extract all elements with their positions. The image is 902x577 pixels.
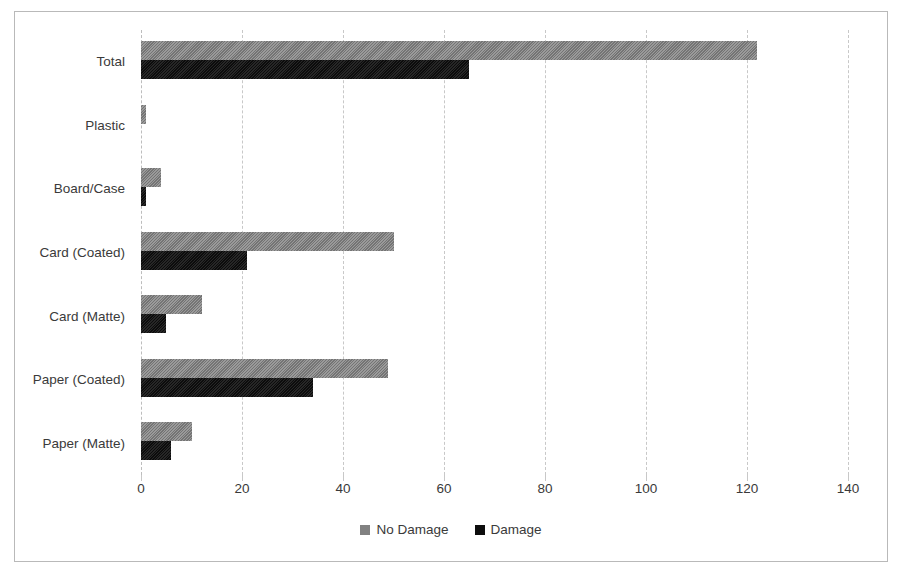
legend-swatch-icon	[360, 525, 370, 535]
bar-no-damage-card-coated[interactable]	[141, 232, 394, 251]
bar-no-damage-card-matte[interactable]	[141, 295, 202, 314]
chart-container: TotalPlasticBoard/CaseCard (Coated)Card …	[0, 0, 902, 577]
gridline-140	[848, 30, 850, 475]
category-label-plastic: Plastic	[20, 94, 133, 158]
legend-item-damage[interactable]: Damage	[475, 522, 542, 537]
bar-group-paper-coated	[141, 348, 848, 412]
x-axis-label-140: 140	[837, 481, 860, 496]
category-label-total: Total	[20, 30, 133, 94]
bars-layer	[141, 30, 848, 475]
bar-group-card-coated	[141, 221, 848, 285]
x-axis-label-0: 0	[137, 481, 145, 496]
chart-legend: No DamageDamage	[0, 522, 902, 537]
bar-damage-paper-matte[interactable]	[141, 441, 171, 460]
category-label-board-case: Board/Case	[20, 157, 133, 221]
bar-damage-total[interactable]	[141, 60, 469, 79]
bar-group-paper-matte	[141, 411, 848, 475]
x-axis-label-40: 40	[335, 481, 350, 496]
bar-group-card-matte	[141, 284, 848, 348]
legend-label: Damage	[491, 522, 542, 537]
bar-group-plastic	[141, 94, 848, 158]
bar-no-damage-paper-coated[interactable]	[141, 359, 388, 378]
category-label-paper-matte: Paper (Matte)	[20, 411, 133, 475]
bar-group-total	[141, 30, 848, 94]
bar-no-damage-board-case[interactable]	[141, 168, 161, 187]
bar-damage-paper-coated[interactable]	[141, 378, 313, 397]
legend-label: No Damage	[376, 522, 448, 537]
legend-swatch-icon	[475, 525, 485, 535]
x-axis-tick-labels: 020406080100120140	[141, 481, 848, 503]
bar-damage-card-coated[interactable]	[141, 251, 247, 270]
bar-no-damage-plastic[interactable]	[141, 105, 146, 124]
bar-group-board-case	[141, 157, 848, 221]
x-axis-label-100: 100	[635, 481, 658, 496]
x-axis-label-20: 20	[234, 481, 249, 496]
category-label-card-coated: Card (Coated)	[20, 221, 133, 285]
x-axis-label-80: 80	[537, 481, 552, 496]
category-label-card-matte: Card (Matte)	[20, 284, 133, 348]
bar-damage-card-matte[interactable]	[141, 314, 166, 333]
bar-no-damage-total[interactable]	[141, 41, 757, 60]
bar-damage-board-case[interactable]	[141, 187, 146, 206]
bar-no-damage-paper-matte[interactable]	[141, 422, 192, 441]
y-axis-category-labels: TotalPlasticBoard/CaseCard (Coated)Card …	[20, 30, 133, 475]
category-label-paper-coated: Paper (Coated)	[20, 348, 133, 412]
legend-item-no-damage[interactable]: No Damage	[360, 522, 448, 537]
x-axis-label-60: 60	[436, 481, 451, 496]
x-axis-label-120: 120	[736, 481, 759, 496]
